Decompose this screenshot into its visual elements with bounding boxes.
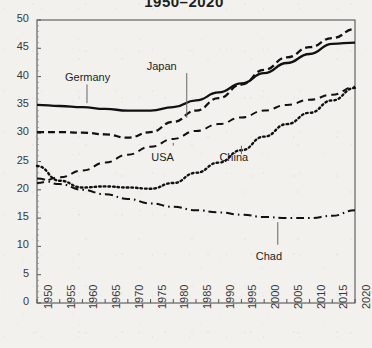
x-axis-tick-label: 2020: [360, 285, 372, 309]
x-axis-tick-label: 1990: [224, 285, 236, 309]
y-axis-tick-label: 5: [3, 267, 29, 279]
y-axis-tick-label: 45: [3, 40, 29, 52]
x-axis-tick-label: 2010: [315, 285, 327, 309]
y-axis-tick-label: 30: [3, 125, 29, 137]
y-axis-tick-label: 35: [3, 97, 29, 109]
x-axis-tick-label: 1960: [87, 285, 99, 309]
y-axis-tick-label: 40: [3, 69, 29, 81]
x-axis-tick-label: 2005: [292, 285, 304, 309]
series-label-germany: Germany: [65, 71, 110, 83]
y-axis-tick-label: 15: [3, 210, 29, 222]
series-label-chad: Chad: [256, 250, 282, 262]
x-axis-tick-label: 1965: [110, 285, 122, 309]
series-label-japan: Japan: [147, 60, 177, 72]
y-axis-tick-label: 50: [3, 12, 29, 24]
x-axis-tick-label: 1985: [201, 285, 213, 309]
x-axis-tick-label: 1970: [133, 285, 145, 309]
x-axis-tick-label: 1980: [178, 285, 190, 309]
x-axis-tick-label: 1995: [246, 285, 258, 309]
series-line-china: [37, 88, 355, 189]
x-axis-tick-label: 2015: [337, 285, 349, 309]
series-label-usa: USA: [151, 151, 174, 163]
series-label-china: China: [219, 151, 248, 163]
plot-frame: [37, 20, 355, 303]
x-axis-tick-label: 2000: [269, 285, 281, 309]
y-axis-tick-label: 10: [3, 238, 29, 250]
series-line-chad: [37, 179, 355, 219]
y-axis-tick-label: 20: [3, 182, 29, 194]
x-axis-tick-label: 1975: [156, 285, 168, 309]
x-axis-tick-label: 1955: [65, 285, 77, 309]
x-axis-tick-label: 1950: [42, 285, 54, 309]
y-axis-tick-label: 0: [3, 295, 29, 307]
y-axis-tick-label: 25: [3, 154, 29, 166]
